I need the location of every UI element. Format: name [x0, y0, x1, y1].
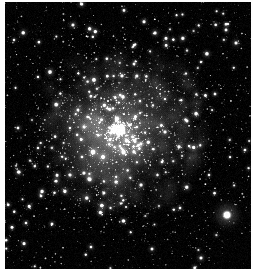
top-margin-strip: [0, 0, 253, 2]
sky-field: [5, 2, 251, 269]
image-viewport: [0, 0, 253, 269]
globular-cluster-starfield-canvas: [5, 2, 251, 269]
right-margin-strip: [251, 0, 253, 269]
left-margin-strip: [0, 0, 5, 269]
